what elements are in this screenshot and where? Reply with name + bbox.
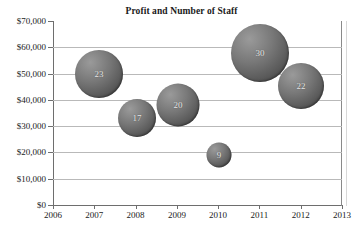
y-axis-tick [48,47,53,48]
gridline-y [53,152,342,153]
x-axis-tick [53,205,54,209]
bubble-value-label: 23 [95,70,104,79]
x-axis-tick [301,205,302,209]
y-axis-tick [48,179,53,180]
y-axis-label: $20,000 [17,147,46,157]
bubble-value-label: 22 [297,82,306,91]
bubble-value-label: 17 [133,114,142,123]
x-axis-tick [94,205,95,209]
chart-title: Profit and Number of Staff [0,6,363,16]
bubble-value-label: 9 [217,151,222,160]
y-axis-label: $70,000 [17,16,46,26]
x-axis-label: 2010 [209,210,227,220]
y-axis-label: $10,000 [17,174,46,184]
x-axis-label: 2009 [168,210,186,220]
chart-page: Profit and Number of Staff $70,000$60,00… [0,0,363,234]
y-axis-label: $40,000 [17,95,46,105]
bubble-value-label: 30 [256,49,265,58]
y-axis-label: $30,000 [17,121,46,131]
plot-right-border-outer [346,21,347,206]
bubble-data-point[interactable]: 20 [157,84,200,127]
x-axis-tick [218,205,219,209]
x-axis-line [53,205,342,206]
x-axis-label: 2011 [251,210,269,220]
y-axis-label: $50,000 [17,69,46,79]
x-axis-tick [342,205,343,209]
gridline-y [53,47,342,48]
bubble-data-point[interactable]: 22 [278,63,324,109]
x-axis-label: 2012 [292,210,310,220]
bubble-data-point[interactable]: 9 [207,143,232,168]
y-axis-tick [48,74,53,75]
x-axis-label: 2013 [333,210,351,220]
x-axis-label: 2006 [44,210,62,220]
y-axis-tick [48,21,53,22]
bubble-data-point[interactable]: 17 [118,99,156,137]
x-axis-tick [177,205,178,209]
gridline-y [53,179,342,180]
x-axis-tick [136,205,137,209]
y-axis-label: $0 [37,200,46,210]
x-axis-label: 2007 [85,210,103,220]
y-axis-tick [48,126,53,127]
x-axis-label: 2008 [127,210,145,220]
gridline-y [53,126,342,127]
bubble-value-label: 20 [174,101,183,110]
y-axis-label: $60,000 [17,42,46,52]
x-axis-tick [259,205,260,209]
y-axis-tick [48,152,53,153]
bubble-data-point[interactable]: 23 [75,50,123,98]
y-axis-tick [48,100,53,101]
